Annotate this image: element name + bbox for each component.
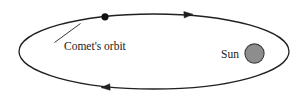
- comet-marker-dot: [101, 13, 108, 20]
- diagram-canvas: Comet's orbit Sun: [0, 0, 306, 103]
- comet-orbit-label: Comet's orbit: [64, 40, 127, 52]
- orbit-direction-arrow-bottom-icon: [101, 84, 110, 90]
- comet-orbit-diagram: Comet's orbit Sun: [0, 0, 306, 103]
- sun-body-circle: [245, 44, 264, 63]
- sun-label: Sun: [221, 48, 239, 60]
- orbit-direction-arrow-top-icon: [184, 12, 193, 18]
